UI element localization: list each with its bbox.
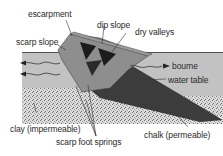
label-water-table: water table [168,75,208,85]
label-scarp-foot-springs: scarp foot springs [56,137,121,147]
label-escarpment: escarpment [28,9,71,19]
label-bourne: bourne [172,61,198,71]
label-scarp-slope: scarp slope [16,37,58,47]
label-dip-slope: dip slope [97,20,130,30]
escarpment-leader [66,20,72,36]
label-dry-valleys: dry valleys [135,27,174,37]
label-chalk: chalk (permeable) [144,130,210,140]
label-clay: clay (impermeable) [10,124,80,134]
